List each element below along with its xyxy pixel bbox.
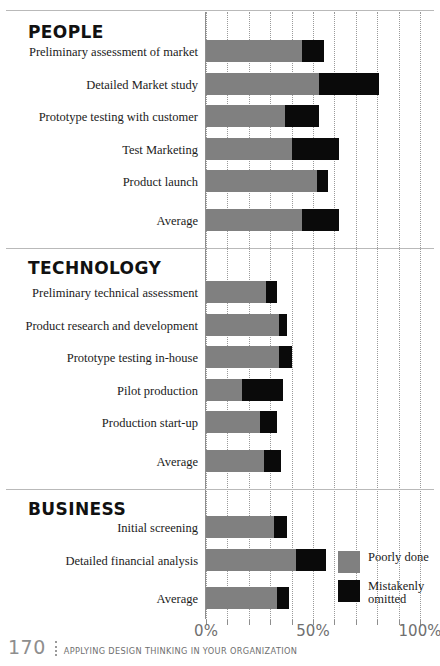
section-divider-business	[6, 489, 434, 490]
stacked-bar	[206, 73, 379, 95]
bar-segment-poorly-done	[206, 40, 302, 62]
legend-item: Poorly done	[338, 551, 438, 573]
row-label: Product launch	[123, 176, 198, 189]
bar-segment-mistakenly-omitted	[285, 105, 319, 127]
bar-segment-poorly-done	[206, 105, 285, 127]
stacked-bar	[206, 138, 339, 160]
section-title-business: BUSINESS	[28, 499, 126, 519]
gridline-90	[399, 12, 400, 620]
stacked-bar	[206, 411, 277, 433]
bar-segment-poorly-done	[206, 346, 279, 368]
section-divider-technology	[6, 248, 434, 249]
page-number: 170	[8, 636, 46, 658]
row-label: Average	[157, 215, 198, 228]
row-label: Test Marketing	[122, 144, 198, 157]
stacked-bar	[206, 105, 319, 127]
stacked-bar	[206, 549, 326, 571]
row-label: Preliminary technical assessment	[32, 287, 198, 300]
row-label: Pilot production	[117, 385, 198, 398]
row-label: Average	[157, 456, 198, 469]
section-title-people: PEOPLE	[28, 22, 104, 42]
stacked-bar	[206, 587, 289, 609]
bar-segment-mistakenly-omitted	[302, 40, 323, 62]
gridline-60	[334, 12, 335, 620]
stacked-bar	[206, 346, 292, 368]
bar-segment-poorly-done	[206, 138, 292, 160]
stacked-bar	[206, 170, 328, 192]
stacked-bar	[206, 379, 283, 401]
bar-segment-mistakenly-omitted	[317, 170, 328, 192]
stacked-bar	[206, 209, 339, 231]
legend-label: Poorly done	[368, 551, 438, 564]
stacked-bar	[206, 40, 324, 62]
row-label: Production start-up	[102, 417, 198, 430]
gridline-80	[377, 12, 378, 620]
bar-segment-poorly-done	[206, 281, 266, 303]
bar-segment-mistakenly-omitted	[242, 379, 283, 401]
row-label: Average	[157, 593, 198, 606]
row-label: Prototype testing with customer	[39, 111, 198, 124]
gridline-50	[313, 12, 314, 620]
bar-segment-mistakenly-omitted	[279, 346, 292, 368]
stacked-bar	[206, 516, 287, 538]
row-label: Detailed Market study	[86, 79, 198, 92]
top-divider	[6, 10, 434, 11]
legend-item: Mistakenly omitted	[338, 580, 438, 606]
row-label: Product research and development	[25, 320, 198, 333]
legend-label: Mistakenly omitted	[368, 580, 438, 606]
stacked-bar	[206, 281, 277, 303]
chart-page: PEOPLEPreliminary assessment of marketDe…	[0, 0, 440, 666]
bar-segment-mistakenly-omitted	[292, 138, 339, 160]
bar-segment-mistakenly-omitted	[319, 73, 379, 95]
bar-segment-poorly-done	[206, 411, 260, 433]
bar-segment-mistakenly-omitted	[266, 281, 277, 303]
bar-segment-poorly-done	[206, 549, 296, 571]
row-label: Initial screening	[117, 522, 198, 535]
footer-separator	[55, 641, 57, 656]
legend-swatch-black	[338, 580, 360, 602]
bar-segment-poorly-done	[206, 170, 317, 192]
section-title-technology: TECHNOLOGY	[28, 258, 161, 278]
page-footer: 170 APPLYING DESIGN THINKING IN YOUR ORG…	[8, 636, 297, 658]
bar-segment-poorly-done	[206, 73, 319, 95]
bar-segment-poorly-done	[206, 450, 264, 472]
gridline-70	[356, 12, 357, 620]
legend-swatch-gray	[338, 551, 360, 573]
bar-segment-mistakenly-omitted	[274, 516, 287, 538]
running-head: APPLYING DESIGN THINKING IN YOUR ORGANIZ…	[64, 646, 298, 658]
stacked-bar	[206, 314, 287, 336]
bar-segment-poorly-done	[206, 379, 242, 401]
axis-label-50: 50%	[296, 622, 329, 640]
gridline-40	[292, 12, 293, 620]
bar-segment-poorly-done	[206, 314, 279, 336]
gridline-100	[420, 12, 421, 620]
row-label: Prototype testing in-house	[67, 352, 198, 365]
bar-segment-mistakenly-omitted	[296, 549, 326, 571]
bar-segment-mistakenly-omitted	[277, 587, 290, 609]
bar-segment-poorly-done	[206, 587, 277, 609]
bar-segment-poorly-done	[206, 516, 274, 538]
row-label: Preliminary assessment of market	[29, 46, 198, 59]
bar-segment-mistakenly-omitted	[260, 411, 277, 433]
bar-segment-mistakenly-omitted	[264, 450, 281, 472]
axis-label-100: 100%	[399, 622, 440, 640]
stacked-bar	[206, 450, 281, 472]
chart-legend: Poorly doneMistakenly omitted	[338, 551, 438, 613]
row-label: Detailed financial analysis	[65, 555, 198, 568]
bar-segment-poorly-done	[206, 209, 302, 231]
bar-segment-mistakenly-omitted	[279, 314, 288, 336]
bar-segment-mistakenly-omitted	[302, 209, 338, 231]
